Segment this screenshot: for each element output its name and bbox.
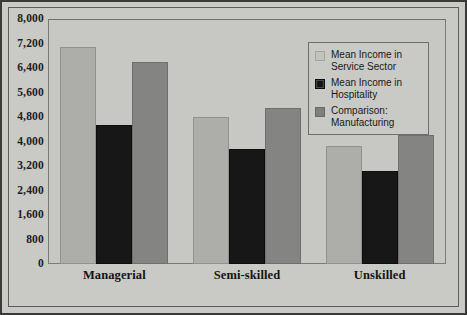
legend-label-line2: Service Sector [331,61,402,73]
legend-label-line1: Mean Income in [331,49,402,61]
y-axis-tick-label: 5,600 [0,87,44,98]
legend-label-line2: Hospitality [331,89,402,101]
bar-group [48,19,181,264]
chart-screenshot: 8,0007,2006,4005,6004,8004,0003,2002,400… [0,0,467,315]
y-axis-tick-label: 8,000 [0,13,44,24]
bar[interactable] [362,171,398,264]
bar[interactable] [60,47,96,264]
legend-item[interactable]: Mean Income inService Sector [315,49,422,72]
bar[interactable] [229,149,265,264]
y-axis-tick-label: 4,800 [0,111,44,122]
y-axis-tick-label: 1,600 [0,209,44,220]
bar[interactable] [96,125,132,264]
y-axis-tick-label: 3,200 [0,160,44,171]
y-axis-tick-label: 6,400 [0,62,44,73]
y-axis: 8,0007,2006,4005,6004,8004,0003,2002,400… [0,19,44,265]
chart-legend: Mean Income inService SectorMean Income … [308,42,429,135]
legend-swatch-icon [315,51,325,61]
y-axis-tick-label: 2,400 [0,185,44,196]
bar-group [181,19,314,264]
y-axis-tick-label: 7,200 [0,38,44,49]
y-axis-tick-label: 800 [0,234,44,245]
legend-label: Mean Income inHospitality [331,77,402,100]
y-axis-tick-label: 4,000 [0,136,44,147]
bar[interactable] [132,62,168,264]
legend-item[interactable]: Mean Income inHospitality [315,77,422,100]
legend-label-line2: Manufacturing [331,117,394,129]
legend-swatch-icon [315,79,325,89]
x-axis-category-label: Semi-skilled [181,268,314,290]
legend-label-line1: Comparison: [331,105,394,117]
legend-label: Comparison:Manufacturing [331,105,394,128]
x-axis: ManagerialSemi-skilledUnskilled [48,268,446,290]
legend-swatch-icon [315,107,325,117]
legend-label-line1: Mean Income in [331,77,402,89]
bar[interactable] [326,146,362,264]
legend-item[interactable]: Comparison:Manufacturing [315,105,422,128]
y-axis-tick-label: 0 [0,258,44,269]
bar[interactable] [193,117,229,264]
x-axis-category-label: Unskilled [313,268,446,290]
bar[interactable] [265,108,301,264]
x-axis-category-label: Managerial [48,268,181,290]
legend-label: Mean Income inService Sector [331,49,402,72]
bar[interactable] [398,135,434,264]
